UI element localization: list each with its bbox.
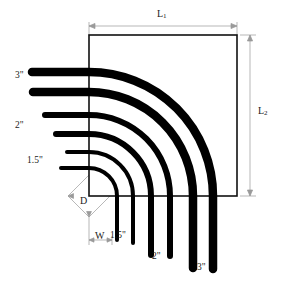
- dimension-label-L1: L1: [157, 9, 167, 20]
- dimension-label-W: W: [95, 231, 104, 241]
- size-label-left-1-5in: 1.5": [27, 156, 43, 166]
- bend-conduit-drawing: [0, 0, 283, 285]
- dimension-label-L2: L2: [258, 106, 268, 117]
- size-label-bottom-1-5in: 1.5": [110, 231, 126, 241]
- dimension-L2: [240, 35, 256, 196]
- diagram-canvas: L1 L2 D W 3" 2" 1.5" 1.5" 2" 3": [0, 0, 283, 285]
- dimension-L1: [89, 22, 237, 36]
- size-label-bottom-3in: 3": [197, 263, 206, 273]
- size-label-left-2in: 2": [15, 121, 24, 131]
- size-label-left-3in: 3": [15, 71, 24, 81]
- dimension-label-D: D: [80, 196, 87, 206]
- size-label-bottom-2in: 2": [152, 252, 161, 262]
